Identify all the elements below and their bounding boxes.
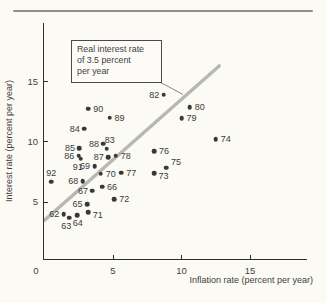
y-axis-title: Interest rate (percent per year) bbox=[4, 56, 14, 226]
data-point-79 bbox=[179, 116, 184, 121]
data-point-75 bbox=[164, 166, 169, 171]
data-point-69 bbox=[92, 164, 97, 169]
data-point-label-62: 62 bbox=[49, 210, 59, 219]
data-point-label-84: 84 bbox=[70, 124, 80, 133]
data-point-85 bbox=[77, 146, 82, 151]
data-point-89 bbox=[107, 115, 112, 120]
x-tick-label-10: 10 bbox=[173, 266, 191, 276]
data-point-62 bbox=[61, 212, 66, 217]
data-point-label-89: 89 bbox=[115, 113, 125, 122]
data-point-77 bbox=[119, 170, 124, 175]
annotation-line-1: Real interest rate bbox=[77, 44, 157, 55]
data-point-label-73: 73 bbox=[159, 172, 169, 181]
data-point-87 bbox=[106, 155, 111, 160]
y-tick-label-10: 10 bbox=[20, 137, 38, 147]
data-point-label-65: 65 bbox=[72, 200, 82, 209]
data-point-label-92: 92 bbox=[46, 169, 56, 178]
data-point-label-91: 91 bbox=[73, 163, 83, 172]
x-axis bbox=[43, 259, 307, 260]
data-point-label-74: 74 bbox=[221, 135, 231, 144]
data-point-label-71: 71 bbox=[93, 211, 103, 220]
data-point-label-76: 76 bbox=[159, 146, 169, 155]
data-point-label-87: 87 bbox=[94, 152, 104, 161]
data-point-90 bbox=[86, 106, 91, 111]
data-point-76 bbox=[152, 149, 157, 154]
data-point-70 bbox=[98, 172, 103, 177]
data-point-64 bbox=[75, 213, 80, 218]
data-point-label-63: 63 bbox=[61, 222, 71, 231]
data-point-88 bbox=[101, 141, 106, 146]
y-tick-10 bbox=[44, 141, 48, 142]
data-point-67 bbox=[90, 188, 95, 193]
data-point-label-70: 70 bbox=[106, 169, 116, 178]
data-point-label-66: 66 bbox=[107, 182, 117, 191]
data-point-73 bbox=[152, 171, 157, 176]
x-tick-label-0: 0 bbox=[27, 266, 45, 276]
data-point-label-90: 90 bbox=[93, 104, 103, 113]
data-point-83 bbox=[105, 146, 110, 151]
x-tick-label-5: 5 bbox=[104, 266, 122, 276]
annotation-line-2: of 3.5 percent bbox=[77, 55, 157, 66]
data-point-72 bbox=[112, 197, 117, 202]
data-point-label-79: 79 bbox=[187, 114, 197, 123]
data-point-74 bbox=[213, 137, 218, 142]
annotation-line-3: per year bbox=[77, 66, 157, 77]
data-point-label-82: 82 bbox=[149, 90, 159, 99]
data-point-68 bbox=[81, 179, 86, 184]
annotation-callout: Real interest rate of 3.5 percent per ye… bbox=[71, 40, 162, 83]
data-point-label-72: 72 bbox=[119, 195, 129, 204]
y-tick-label-5: 5 bbox=[20, 197, 38, 207]
data-point-label-64: 64 bbox=[73, 219, 83, 228]
data-point-80 bbox=[187, 105, 192, 110]
data-point-82 bbox=[161, 93, 166, 98]
data-point-label-77: 77 bbox=[126, 168, 136, 177]
y-tick-5 bbox=[44, 202, 48, 203]
data-point-label-86: 86 bbox=[64, 151, 74, 160]
x-tick-15 bbox=[250, 255, 251, 259]
x-tick-5 bbox=[113, 255, 114, 259]
data-point-71 bbox=[86, 210, 91, 215]
data-point-label-78: 78 bbox=[121, 151, 131, 160]
y-tick-label-15: 15 bbox=[20, 77, 38, 87]
plot-area: 51015051015 6263646566676869707172737475… bbox=[0, 0, 326, 303]
data-point-92 bbox=[49, 179, 54, 184]
data-point-91 bbox=[79, 156, 84, 161]
data-point-label-68: 68 bbox=[68, 177, 78, 186]
data-point-66 bbox=[100, 184, 105, 189]
data-point-78 bbox=[113, 153, 118, 158]
data-point-label-80: 80 bbox=[195, 102, 205, 111]
data-point-label-67: 67 bbox=[78, 186, 88, 195]
scatter-figure: 51015051015 6263646566676869707172737475… bbox=[0, 0, 326, 303]
data-point-63 bbox=[67, 216, 72, 221]
x-tick-10 bbox=[181, 255, 182, 259]
data-point-label-83: 83 bbox=[105, 136, 115, 145]
data-point-65 bbox=[85, 202, 90, 207]
data-point-label-75: 75 bbox=[171, 158, 181, 167]
x-axis-title: Inflation rate (percent per year) bbox=[189, 275, 313, 285]
y-tick-15 bbox=[44, 81, 48, 82]
data-point-84 bbox=[82, 126, 87, 131]
data-point-label-88: 88 bbox=[89, 139, 99, 148]
